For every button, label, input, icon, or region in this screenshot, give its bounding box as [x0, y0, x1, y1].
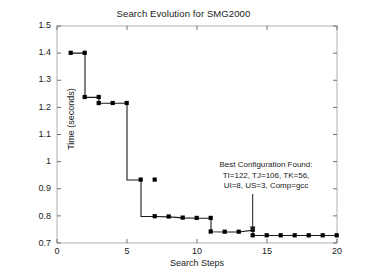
plot-area: 0.7 0.8 0.9 1 1.1 1.2 1.3 1.4 1.5 0 5 10… — [57, 26, 337, 243]
x-axis-label: Search Steps — [57, 258, 337, 268]
annotation-line-3: UI=8, US=3, Comp=gcc — [196, 181, 336, 192]
y-tick-label: 1.5 — [17, 20, 51, 30]
x-tick-label: 10 — [185, 246, 209, 256]
chart-figure: Search Evolution for SMG2000 — [0, 0, 367, 279]
x-tick-label: 0 — [45, 246, 69, 256]
annotation-line-2: TI=122, TJ=106, TK=56, — [196, 171, 336, 182]
x-tick-label: 15 — [255, 246, 279, 256]
y-axis-label: Time (seconds) — [66, 59, 76, 179]
y-tick-label: 1.4 — [17, 47, 51, 57]
y-tick-label: 0.8 — [17, 211, 51, 221]
y-tick-label: 1.2 — [17, 102, 51, 112]
x-tick-label: 20 — [325, 246, 349, 256]
y-tick-label: 1.1 — [17, 129, 51, 139]
y-tick-label: 1.3 — [17, 74, 51, 84]
best-configuration-annotation: Best Configuration Found: TI=122, TJ=106… — [196, 160, 336, 192]
y-tick-label: 1 — [17, 156, 51, 166]
annotation-line-1: Best Configuration Found: — [196, 160, 336, 171]
y-tick-label: 0.9 — [17, 183, 51, 193]
x-tick-label: 5 — [115, 246, 139, 256]
